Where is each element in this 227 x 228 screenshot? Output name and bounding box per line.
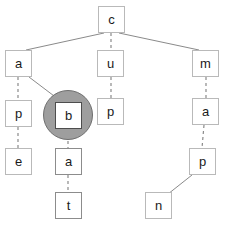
tree-node-b[interactable]: b: [55, 102, 82, 129]
tree-node-a3[interactable]: a: [55, 148, 82, 175]
tree-node-label: e: [15, 155, 22, 168]
tree-node-label: a: [15, 57, 22, 70]
tree-node-a1[interactable]: a: [5, 50, 32, 77]
tree-node-p3[interactable]: p: [189, 148, 216, 175]
tree-node-label: p: [199, 155, 206, 168]
tree-node-u[interactable]: u: [97, 50, 124, 77]
edge-c-to-m: [119, 33, 199, 50]
tree-node-label: a: [65, 155, 72, 168]
edge-a2-to-p3: [202, 125, 204, 148]
tree-node-label: t: [67, 199, 71, 212]
tree-node-p2[interactable]: p: [97, 98, 124, 125]
tree-node-label: n: [155, 199, 162, 212]
tree-node-a2[interactable]: a: [192, 98, 219, 125]
tree-node-label: a: [202, 105, 209, 118]
tree-node-n[interactable]: n: [145, 192, 172, 219]
tree-diagram-canvas: caumpbpaeaptn: [0, 0, 227, 228]
tree-node-c[interactable]: c: [98, 6, 125, 33]
tree-node-label: u: [107, 57, 114, 70]
tree-node-e[interactable]: e: [5, 148, 32, 175]
tree-node-label: p: [15, 107, 22, 120]
tree-node-m[interactable]: m: [192, 50, 219, 77]
tree-node-p1[interactable]: p: [5, 100, 32, 127]
edge-c-to-a1: [26, 33, 104, 50]
tree-node-label: c: [108, 13, 115, 26]
tree-node-label: m: [200, 57, 211, 70]
tree-node-t[interactable]: t: [55, 192, 82, 219]
tree-node-label: b: [65, 109, 72, 122]
tree-node-label: p: [107, 105, 114, 118]
